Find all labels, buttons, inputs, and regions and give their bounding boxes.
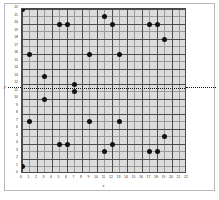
data-point — [65, 142, 70, 147]
data-point — [102, 149, 107, 154]
data-point — [110, 22, 115, 27]
y-tick-label: 13 — [7, 74, 18, 77]
data-point — [162, 37, 167, 42]
x-tick-label: 2 — [35, 176, 37, 179]
x-tick-label: 8 — [80, 176, 82, 179]
minor-gridlines — [22, 9, 185, 172]
data-point — [27, 52, 32, 57]
y-tick-label: 20 — [7, 21, 18, 24]
y-tick-label: 14 — [7, 66, 18, 69]
x-axis-title: x — [103, 184, 105, 188]
y-tick-label: 9 — [7, 104, 18, 107]
y-tick-label: 22 — [7, 6, 18, 9]
y-tick-label: 2 — [7, 156, 18, 159]
y-tick-label: 10 — [7, 96, 18, 99]
data-point — [162, 134, 167, 139]
y-tick-label: 21 — [7, 14, 18, 17]
x-tick-label: 17 — [147, 176, 151, 179]
data-point — [57, 22, 62, 27]
data-point — [72, 82, 77, 87]
x-tick-label: 16 — [139, 176, 143, 179]
x-tick-label: 14 — [124, 176, 128, 179]
data-point — [42, 97, 47, 102]
scatter-plot-figure: y 012345678910111213141516171819202122 0… — [0, 0, 219, 200]
y-tick-label: 11 — [7, 89, 18, 92]
x-tick-label: 20 — [169, 176, 173, 179]
major-gridlines — [22, 9, 185, 172]
x-tick-label: 15 — [132, 176, 136, 179]
plot-area — [21, 8, 186, 173]
y-tick-label: 16 — [7, 51, 18, 54]
x-tick-label: 6 — [65, 176, 67, 179]
data-point — [147, 22, 152, 27]
y-axis-title: y — [4, 85, 6, 89]
y-tick-label: 18 — [7, 36, 18, 39]
x-tick-label: 1 — [28, 176, 30, 179]
y-tick-label: 12 — [7, 81, 18, 84]
y-tick-label: 17 — [7, 44, 18, 47]
x-tick-label: 0 — [20, 176, 22, 179]
x-tick-label: 21 — [177, 176, 181, 179]
data-point — [21, 8, 25, 12]
y-tick-label: 7 — [7, 119, 18, 122]
data-point — [50, 172, 55, 174]
y-tick-label: 15 — [7, 59, 18, 62]
x-tick-label: 19 — [162, 176, 166, 179]
data-point — [117, 119, 122, 124]
data-point — [147, 149, 152, 154]
x-tick-label: 5 — [58, 176, 60, 179]
data-point — [65, 22, 70, 27]
x-tick-label: 3 — [43, 176, 45, 179]
x-tick-label: 18 — [154, 176, 158, 179]
x-tick-label: 9 — [88, 176, 90, 179]
data-point — [155, 22, 160, 27]
y-tick-label: 4 — [7, 141, 18, 144]
data-point — [72, 89, 77, 94]
x-tick-label: 4 — [50, 176, 52, 179]
y-tick-label: 5 — [7, 134, 18, 137]
y-tick-label: 6 — [7, 126, 18, 129]
x-tick-label: 12 — [109, 176, 113, 179]
y-tick-label: 0 — [7, 171, 18, 174]
y-tick-label: 19 — [7, 29, 18, 32]
data-point — [117, 52, 122, 57]
data-point — [87, 52, 92, 57]
data-point — [110, 142, 115, 147]
y-tick-label: 8 — [7, 111, 18, 114]
data-point — [27, 119, 32, 124]
x-tick-label: 13 — [117, 176, 121, 179]
x-tick-label: 22 — [184, 176, 188, 179]
x-tick-label: 10 — [94, 176, 98, 179]
horizontal-reference-line — [22, 88, 185, 89]
x-tick-label: 7 — [73, 176, 75, 179]
data-point — [21, 164, 25, 169]
data-point — [155, 149, 160, 154]
data-point — [57, 142, 62, 147]
data-point — [87, 119, 92, 124]
data-point — [42, 74, 47, 79]
y-tick-label: 3 — [7, 149, 18, 152]
data-point — [102, 14, 107, 19]
y-tick-label: 1 — [7, 164, 18, 167]
x-tick-label: 11 — [102, 176, 106, 179]
